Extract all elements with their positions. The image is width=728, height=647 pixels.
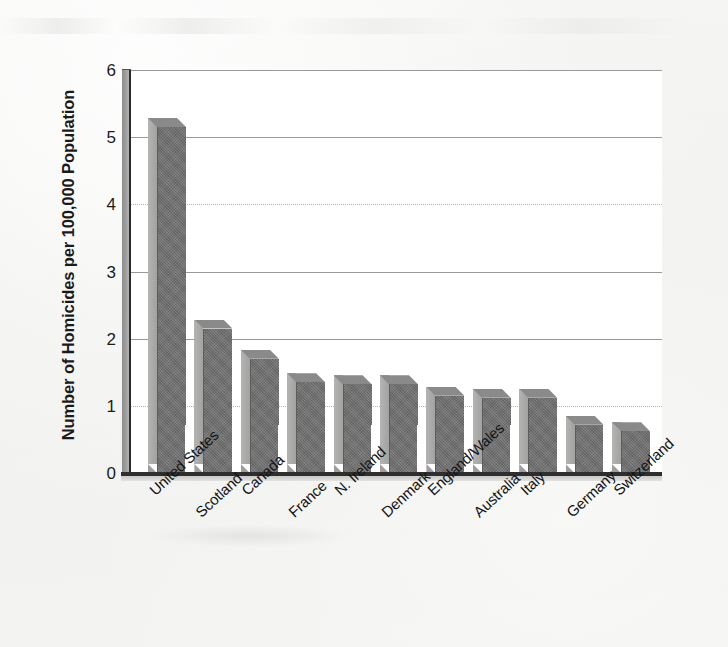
gridline-3: [128, 272, 662, 273]
chart-page: Number of Homicides per 100,000 Populati…: [0, 0, 728, 647]
bar-denmark[interactable]: [380, 375, 418, 473]
bar-side-face: [334, 375, 343, 464]
bar-side-face: [148, 118, 157, 464]
bar-side-face: [426, 387, 435, 464]
plot-area: [128, 70, 662, 473]
bar-side-face: [287, 373, 296, 464]
y-tick-2: 2: [94, 331, 116, 348]
gridline-4: [128, 204, 662, 206]
bar-italy[interactable]: [519, 389, 557, 473]
bar-side-face: [519, 389, 528, 464]
y-tick-3: 3: [94, 264, 116, 281]
y-axis-line: [129, 70, 131, 474]
gridline-5: [128, 137, 662, 138]
bar-front-face: [157, 127, 186, 473]
bar-front-face: [528, 398, 557, 473]
y-axis-title: Number of Homicides per 100,000 Populati…: [59, 55, 78, 475]
bar-front-face: [575, 425, 604, 473]
bar-side-face: [241, 350, 250, 464]
bar-germany[interactable]: [566, 416, 604, 473]
y-tick-5: 5: [94, 129, 116, 146]
x-axis-floor-shadow: [121, 476, 662, 481]
y-tick-1: 1: [94, 398, 116, 415]
bar-france[interactable]: [287, 373, 325, 473]
y-tick-6: 6: [94, 62, 116, 79]
y-tick-4: 4: [94, 196, 116, 213]
gridline-6: [128, 70, 662, 71]
y-tick-0: 0: [94, 465, 116, 482]
scan-smudge: [150, 525, 350, 547]
y-axis-tick-labels: 6543210: [90, 0, 116, 647]
bar-front-face: [296, 382, 325, 473]
bar-united-states[interactable]: [148, 118, 186, 473]
bar-front-face: [389, 384, 418, 473]
